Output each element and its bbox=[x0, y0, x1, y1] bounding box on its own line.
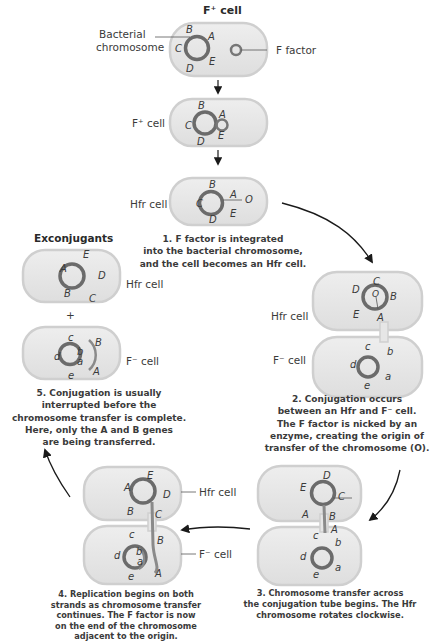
caption-line: Here, only the A and B genes bbox=[0, 424, 198, 436]
gene-label: D bbox=[186, 64, 194, 74]
gene-label: D bbox=[323, 471, 331, 481]
gene-label: A bbox=[124, 483, 131, 493]
gene-label: A bbox=[60, 264, 67, 274]
caption-line: 2. Conjugation occurs bbox=[258, 393, 435, 405]
label-hfr-cell: Hfr cell bbox=[199, 487, 236, 498]
caption-line: chromosome rotates clockwise. bbox=[225, 610, 435, 621]
caption-line: on the end of the chromosome bbox=[26, 621, 226, 632]
step2-caption: 2. Conjugation occurs between an Hfr and… bbox=[258, 393, 435, 454]
gene-label: A bbox=[208, 32, 215, 42]
gene-label: A bbox=[219, 110, 226, 120]
caption-line: The F factor is nicked by an bbox=[258, 418, 435, 430]
gene-label: A bbox=[155, 569, 162, 579]
gene-label: E bbox=[209, 57, 215, 67]
caption-line: 3. Chromosome transfer across bbox=[225, 588, 435, 599]
gene-label: D bbox=[197, 137, 205, 147]
caption-line: the conjugation tube begins. The Hfr bbox=[225, 599, 435, 610]
label-fminus-cell: F⁻ cell bbox=[273, 355, 306, 366]
gene-label: e bbox=[68, 371, 74, 381]
gene-label: b bbox=[387, 347, 393, 357]
gene-label: A bbox=[377, 313, 384, 323]
gene-label: D bbox=[352, 285, 360, 295]
label-bacterial: Bacterial bbox=[99, 29, 146, 40]
gene-label: B bbox=[209, 180, 216, 190]
step4-caption: 4. Replication begins on both strands as… bbox=[26, 589, 226, 642]
gene-label: a bbox=[77, 357, 83, 367]
gene-label: B bbox=[64, 289, 71, 299]
gene-label: C bbox=[338, 492, 345, 502]
label-fminus-cell: F⁻ cell bbox=[199, 549, 232, 560]
gene-label: E bbox=[230, 209, 236, 219]
step1-caption: 1. F factor is integrated into the bacte… bbox=[118, 233, 328, 270]
gene-label: A bbox=[93, 367, 100, 377]
caption-line: between an Hfr and F⁻ cell. bbox=[258, 405, 435, 417]
step2-conjugating-pair bbox=[313, 272, 422, 397]
gene-label: c bbox=[129, 530, 135, 540]
plus-sign: + bbox=[66, 310, 75, 321]
gene-label: E bbox=[218, 131, 224, 141]
gene-label: D bbox=[163, 490, 171, 500]
gene-label: e bbox=[313, 570, 319, 580]
caption-line: strands as chromosome transfer bbox=[26, 600, 226, 611]
gene-label: c bbox=[365, 342, 371, 352]
caption-line: 5. Conjugation is usually bbox=[0, 387, 198, 399]
caption-line: enzyme, creating the origin of bbox=[258, 430, 435, 442]
gene-label: B bbox=[198, 101, 205, 111]
label-fplus-cell: F⁺ cell bbox=[132, 118, 165, 129]
gene-label: E bbox=[83, 250, 89, 260]
gene-label: d bbox=[350, 360, 356, 370]
caption-line: adjacent to the origin. bbox=[26, 631, 226, 642]
gene-label: e bbox=[128, 572, 134, 582]
gene-label: E bbox=[300, 483, 306, 493]
diagram-graphics bbox=[0, 0, 435, 643]
caption-line: and the cell becomes an Hfr cell. bbox=[118, 258, 328, 270]
gene-label: E bbox=[353, 310, 359, 320]
origin-label: O bbox=[372, 290, 379, 299]
gene-label: d bbox=[300, 552, 306, 562]
gene-label: c bbox=[313, 531, 319, 541]
gene-label: B bbox=[127, 507, 134, 517]
gene-label: D bbox=[98, 271, 106, 281]
gene-label: C bbox=[185, 121, 192, 131]
caption-line: into the bacterial chromosome, bbox=[118, 245, 328, 257]
gene-label: B bbox=[390, 292, 397, 302]
label-f-factor: F factor bbox=[276, 45, 316, 56]
gene-label: C bbox=[155, 510, 162, 520]
gene-label: B bbox=[329, 512, 336, 522]
gene-label: B bbox=[95, 338, 102, 348]
label-fminus-cell: F⁻ cell bbox=[126, 356, 159, 367]
caption-line: chromosome transfer is complete. bbox=[0, 412, 198, 424]
gene-label: C bbox=[196, 199, 203, 209]
gene-label: a bbox=[335, 563, 341, 573]
gene-label: c bbox=[68, 333, 74, 343]
label-hfr-cell: Hfr cell bbox=[130, 199, 167, 210]
gene-label: b bbox=[335, 538, 341, 548]
title-fplus-cell: F⁺ cell bbox=[203, 4, 242, 17]
gene-label: D bbox=[209, 215, 217, 225]
caption-line: 1. F factor is integrated bbox=[118, 233, 328, 245]
exconjugants-title: Exconjugants bbox=[34, 232, 113, 244]
conjugation-diagram: F⁺ cell Bacterial chromosome F factor B … bbox=[0, 0, 435, 643]
caption-line: continues. The F factor is now bbox=[26, 610, 226, 621]
gene-label: B bbox=[186, 25, 193, 35]
gene-label: d bbox=[114, 551, 120, 561]
gene-label: C bbox=[373, 277, 380, 287]
gene-label: e bbox=[364, 381, 370, 391]
label-hfr-cell: Hfr cell bbox=[126, 279, 163, 290]
gene-label: a bbox=[385, 372, 391, 382]
caption-line: interrupted before the bbox=[0, 399, 198, 411]
gene-label: A bbox=[230, 190, 237, 200]
step5-caption: 5. Conjugation is usually interrupted be… bbox=[0, 387, 198, 448]
gene-label: a bbox=[137, 557, 143, 567]
step3-caption: 3. Chromosome transfer across the conjug… bbox=[225, 588, 435, 621]
caption-line: transfer of the chromosome (O). bbox=[258, 442, 435, 454]
caption-line: are being transferred. bbox=[0, 436, 198, 448]
gene-label: A bbox=[302, 510, 309, 520]
label-chromosome: chromosome bbox=[96, 42, 164, 53]
gene-label: d bbox=[54, 352, 60, 362]
label-hfr-cell: Hfr cell bbox=[271, 311, 308, 322]
gene-label: C bbox=[89, 294, 96, 304]
gene-label: E bbox=[147, 471, 153, 481]
origin-label: O bbox=[245, 195, 253, 205]
step3-conjugating-pair bbox=[258, 466, 361, 585]
